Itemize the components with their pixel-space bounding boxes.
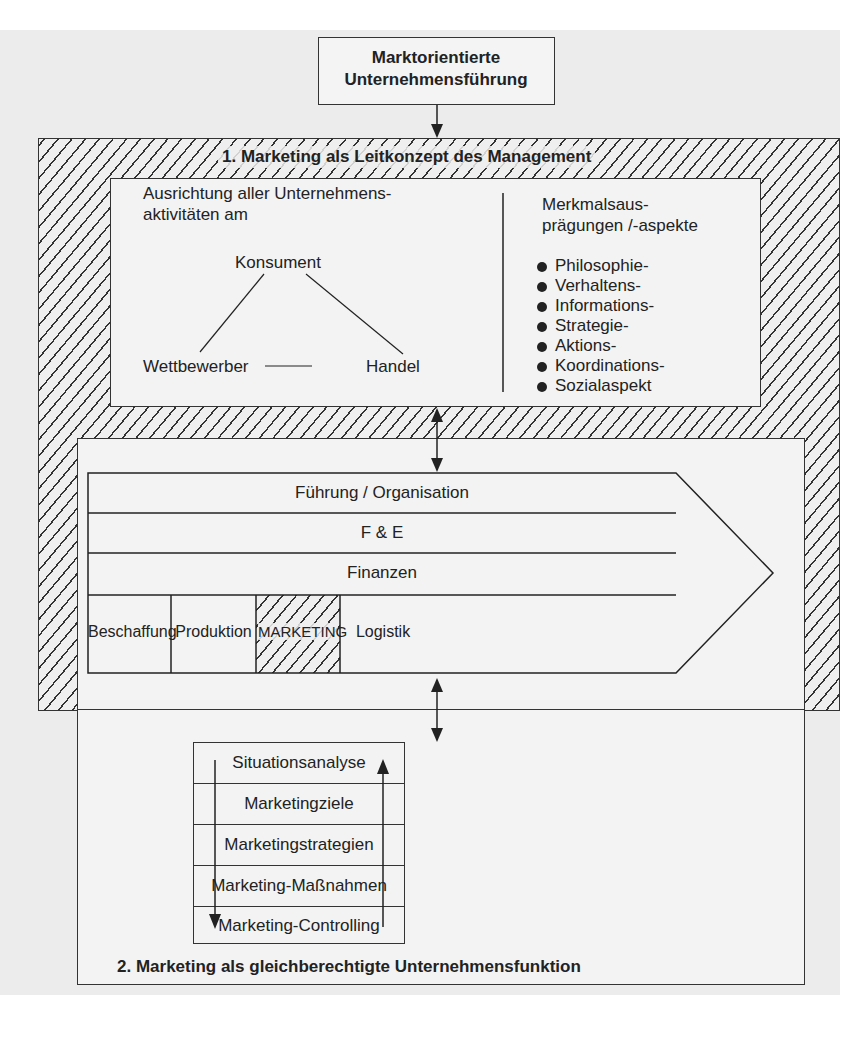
arrow-down-icon: [431, 105, 443, 138]
value-chain-arrow-shape: [88, 473, 773, 673]
double-arrow-icon: [431, 408, 443, 472]
double-arrow-icon: [431, 678, 443, 742]
process-down-arrow-icon: [209, 760, 221, 929]
diagram-connectors: [0, 0, 860, 1045]
triangle-lines: [200, 274, 403, 366]
process-up-arrow-icon: [377, 759, 389, 927]
